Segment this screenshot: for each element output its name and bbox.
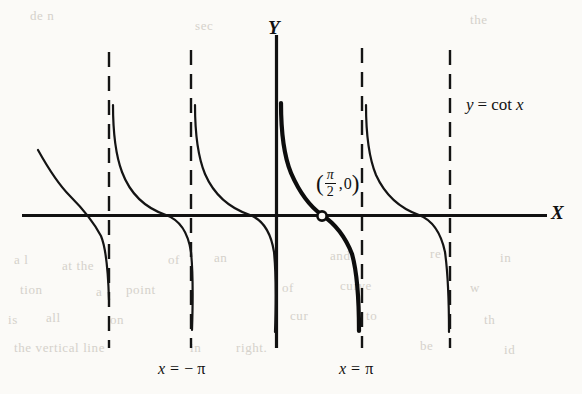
- cotangent-graph-figure: de nsecthea lat theofanandreintionapoint…: [0, 0, 582, 394]
- curve-equation-function: cot: [491, 95, 512, 114]
- asymptote-lines: [109, 48, 450, 348]
- point-label-close-paren: ): [352, 172, 360, 195]
- curve-equation-label: y=cotx: [466, 96, 523, 113]
- curve-equation-equals: =: [478, 95, 488, 114]
- y-axis-label: Y: [268, 18, 280, 37]
- plot-canvas: [0, 0, 582, 394]
- point-label-open-paren: (: [316, 172, 324, 195]
- point-label-denominator: 2: [325, 184, 336, 199]
- x-axis-label: X: [551, 203, 564, 222]
- asymptote-label-neg-pi-equals: =: [170, 360, 179, 377]
- curve-equation-argument: x: [516, 95, 524, 114]
- axes: [22, 35, 547, 348]
- asymptote-label-pi-var: x: [339, 360, 346, 377]
- asymptote-label-pi: x=π: [339, 361, 373, 377]
- cot-branch-5: [366, 105, 449, 332]
- asymptote-label-pi-value: π: [365, 360, 373, 377]
- cotangent-curves: [38, 105, 449, 332]
- point-label-pi-over-2: ( π 2 , 0 ): [316, 168, 359, 199]
- point-label-fraction: π 2: [325, 168, 336, 199]
- asymptote-label-neg-pi: x=− π: [158, 361, 205, 377]
- cot-branch-1: [38, 150, 109, 300]
- point-label-comma: ,: [339, 176, 343, 192]
- point-label-y-value: 0: [344, 176, 352, 192]
- asymptote-label-pi-equals: =: [351, 360, 360, 377]
- point-label-numerator: π: [325, 168, 336, 183]
- point-marker-pi-over-2: [317, 211, 326, 220]
- curve-equation-lhs: y: [466, 95, 474, 114]
- cot-branch-3: [195, 105, 276, 332]
- asymptote-label-neg-pi-value: − π: [184, 360, 205, 377]
- asymptote-label-neg-pi-var: x: [158, 360, 165, 377]
- cot-branch-2: [113, 105, 193, 330]
